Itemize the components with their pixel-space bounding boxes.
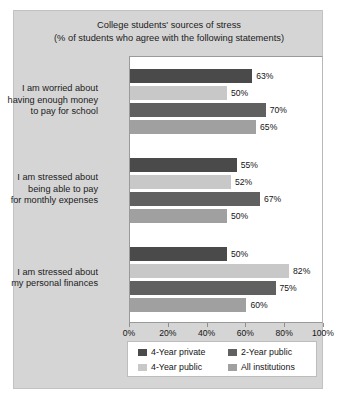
bars-container: 63%50%70%65%55%52%67%50%50%82%75%60%	[130, 57, 322, 322]
bar-value-label: 52%	[231, 177, 252, 187]
bar[interactable]	[130, 120, 256, 134]
bar-row[interactable]: 82%	[130, 264, 322, 278]
bar-value-label: 55%	[237, 160, 258, 170]
bar-value-label: 75%	[276, 283, 297, 293]
legend-label: All institutions	[241, 362, 295, 372]
legend-label: 4-Year public	[151, 362, 202, 372]
bar-value-label: 82%	[289, 266, 310, 276]
bar[interactable]	[130, 192, 260, 206]
plot-area: 63%50%70%65%55%52%67%50%50%82%75%60%	[129, 56, 323, 323]
bar[interactable]	[130, 247, 227, 261]
bar-row[interactable]: 50%	[130, 247, 322, 261]
category-label-line: being able to pay	[0, 184, 98, 196]
bar-value-label: 65%	[256, 122, 277, 132]
bar-value-label: 60%	[246, 300, 267, 310]
chart-title-line-2: (% of students who agree with the follow…	[14, 32, 324, 45]
legend-item[interactable]: 4-Year public	[138, 362, 202, 372]
category-label-line: to pay for school	[0, 106, 98, 118]
category-label: I am worried abouthaving enough moneyto …	[0, 83, 98, 118]
category-label: I am stressed aboutbeing able to payfor …	[0, 172, 98, 207]
bar[interactable]	[130, 264, 289, 278]
bar[interactable]	[130, 281, 276, 295]
bar-row[interactable]: 63%	[130, 69, 322, 83]
bar-group: 50%82%75%60%	[130, 235, 322, 324]
bar-row[interactable]: 75%	[130, 281, 322, 295]
bar-row[interactable]: 50%	[130, 209, 322, 223]
x-axis-tick-label: 80%	[276, 328, 293, 338]
bar-row[interactable]: 65%	[130, 120, 322, 134]
legend-item[interactable]: 4-Year private	[138, 347, 205, 357]
bar-row[interactable]: 60%	[130, 298, 322, 312]
category-label-line: my personal finances	[0, 278, 98, 290]
category-label: I am stressed aboutmy personal finances	[0, 267, 98, 290]
x-axis-tick	[207, 323, 208, 327]
legend-item[interactable]: 2-Year public	[228, 347, 292, 357]
bar[interactable]	[130, 158, 237, 172]
bar-value-label: 50%	[227, 88, 248, 98]
bar[interactable]	[130, 298, 246, 312]
x-axis-tick-label: 20%	[159, 328, 176, 338]
x-axis-tick	[323, 323, 324, 327]
legend-label: 2-Year public	[241, 347, 292, 357]
bar-group: 63%50%70%65%	[130, 57, 322, 146]
category-label-line: I am worried about	[0, 83, 98, 95]
bar-value-label: 50%	[227, 211, 248, 221]
legend-label: 4-Year private	[151, 347, 205, 357]
bar-row[interactable]: 50%	[130, 86, 322, 100]
legend-color-swatch	[138, 364, 147, 371]
bar-group: 55%52%67%50%	[130, 146, 322, 235]
category-label-line: I am stressed about	[0, 172, 98, 184]
bar-row[interactable]: 55%	[130, 158, 322, 172]
bar-value-label: 63%	[252, 71, 273, 81]
category-label-line: I am stressed about	[0, 267, 98, 279]
legend-item[interactable]: All institutions	[228, 362, 295, 372]
x-axis-tick	[284, 323, 285, 327]
bar[interactable]	[130, 103, 266, 117]
bar[interactable]	[130, 86, 227, 100]
bar-value-label: 70%	[266, 105, 287, 115]
chart-title: College students' sources of stress (% o…	[14, 19, 324, 44]
x-axis-tick-labels: 0%20%40%60%80%100%	[129, 328, 323, 340]
bar[interactable]	[130, 69, 252, 83]
x-axis-tick-label: 0%	[123, 328, 135, 338]
category-label-line: for monthly expenses	[0, 195, 98, 207]
bar[interactable]	[130, 175, 231, 189]
x-axis-tick-label: 40%	[198, 328, 215, 338]
bar-row[interactable]: 70%	[130, 103, 322, 117]
x-axis-tick	[168, 323, 169, 327]
legend-color-swatch	[228, 349, 237, 356]
x-axis-tick-label: 60%	[237, 328, 254, 338]
chart-legend: 4-Year private4-Year public2-Year public…	[127, 341, 317, 377]
bar[interactable]	[130, 209, 227, 223]
x-axis-tick-label: 100%	[312, 328, 334, 338]
legend-color-swatch	[228, 364, 237, 371]
category-label-line: having enough money	[0, 95, 98, 107]
bar-value-label: 67%	[260, 194, 281, 204]
chart-title-line-1: College students' sources of stress	[14, 19, 324, 32]
bar-value-label: 50%	[227, 249, 248, 259]
bar-row[interactable]: 52%	[130, 175, 322, 189]
chart-figure: College students' sources of stress (% o…	[13, 10, 323, 389]
x-axis-tick	[245, 323, 246, 327]
x-axis-tick	[129, 323, 130, 327]
bar-row[interactable]: 67%	[130, 192, 322, 206]
legend-color-swatch	[138, 349, 147, 356]
